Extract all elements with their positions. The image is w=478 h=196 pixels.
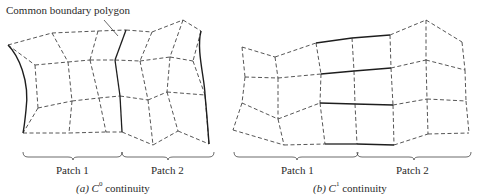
control-polygon-row-edge <box>178 131 209 144</box>
caption-b-symbol: C <box>329 182 336 194</box>
control-polygon-column-edge <box>148 100 153 145</box>
control-polygon-row-edge <box>316 38 352 43</box>
brace-b-patch-2 <box>357 152 471 160</box>
control-polygon-row-edge <box>321 71 354 74</box>
control-polygon-column-edge <box>393 105 394 145</box>
common-boundary-annotation: Common boundary polygon <box>6 4 130 16</box>
annotation-leader-line <box>104 20 118 36</box>
control-polygon-row-edge <box>122 132 153 145</box>
control-polygon-row-edge <box>275 43 316 57</box>
control-polygon-row-edge <box>278 103 320 119</box>
control-polygon-row-edge <box>68 60 90 62</box>
caption-b: (b) C1 continuity <box>313 180 387 194</box>
control-polygon-row-edge <box>352 35 390 38</box>
caption-b-superscript: 1 <box>336 180 340 188</box>
control-polygon-row-edge <box>354 68 391 71</box>
control-polygon-column-edge <box>35 65 38 108</box>
caption-a-symbol: C <box>92 182 99 194</box>
control-polygon-row-edge <box>391 60 426 68</box>
control-polygon-row-edge <box>38 101 72 108</box>
control-polygon-column-edge <box>8 45 35 65</box>
patch-label-a-2: Patch 2 <box>151 164 184 176</box>
control-polygon-row-edge <box>167 92 205 95</box>
control-polygon-column-edge <box>167 57 170 92</box>
control-polygon-row-edge <box>426 60 465 70</box>
control-polygon-row-edge <box>355 104 393 105</box>
left-edge-curve-a <box>8 45 27 133</box>
control-polygon-row-edge <box>152 20 183 32</box>
control-polygon-row-edge <box>126 30 152 32</box>
control-polygon-row-edge <box>69 132 106 133</box>
control-polygon-row-edge <box>98 30 126 31</box>
control-polygon-column-edge <box>426 60 427 99</box>
control-polygon-column-edge <box>462 42 465 70</box>
control-polygon-row-edge <box>233 130 284 145</box>
control-polygon-row-edge <box>99 96 120 98</box>
brace-a-patch-2 <box>122 152 214 160</box>
control-polygon-row-edge <box>394 134 428 145</box>
control-polygon-column-edge <box>278 119 284 145</box>
control-polygon-column-edge <box>275 57 278 78</box>
control-polygon-column-edge <box>391 68 393 105</box>
control-polygon-column-edge <box>99 98 106 132</box>
control-polygon-row-edge <box>148 92 167 100</box>
control-polygon-column-edge <box>242 47 245 77</box>
control-polygon-row-edge <box>393 99 427 105</box>
control-polygon-row-edge <box>72 98 99 101</box>
control-polygon-row-edge <box>170 57 193 61</box>
control-polygon-column-edge <box>90 31 98 60</box>
caption-b-prefix: (b) <box>313 182 326 194</box>
control-polygon-column-edge <box>52 33 68 62</box>
patch-label-b-1: Patch 1 <box>281 164 314 176</box>
patch-label-a-1: Patch 1 <box>56 164 89 176</box>
control-polygon-column-edge <box>320 103 325 144</box>
caption-a-superscript: 0 <box>99 180 103 188</box>
brace-a-patch-1 <box>23 152 122 160</box>
control-polygon-column-edge <box>69 101 72 133</box>
control-polygon-column-edge <box>352 38 354 71</box>
control-polygon-row-edge <box>242 103 278 119</box>
control-polygon-column-edge <box>354 71 355 104</box>
control-polygon-row-edge <box>427 99 466 101</box>
control-polygon-row-edge <box>52 31 98 33</box>
control-polygon-row-edge <box>357 144 394 145</box>
control-polygon-column-edge <box>466 101 469 133</box>
control-polygon-row-edge <box>153 131 178 145</box>
patch-label-b-2: Patch 2 <box>396 164 429 176</box>
control-polygon-column-edge <box>90 60 99 98</box>
control-polygon-row-edge <box>245 77 278 78</box>
control-polygon-row-edge <box>35 62 68 65</box>
control-polygon-column-edge <box>233 103 242 130</box>
control-polygon-row-edge <box>284 144 325 145</box>
control-polygon-row-edge <box>140 57 170 61</box>
control-polygon-column-edge <box>167 92 178 131</box>
caption-a-prefix: (a) <box>76 182 89 194</box>
control-polygon-column-edge <box>140 61 148 100</box>
control-polygon-row-edge <box>320 103 355 104</box>
control-polygon-row-edge <box>183 20 201 31</box>
control-polygon-row-edge <box>428 133 469 134</box>
control-polygon-column-edge <box>465 70 466 101</box>
control-polygon-column-edge <box>68 62 72 101</box>
control-polygon-row-edge <box>278 74 321 78</box>
control-polygon-column-edge <box>170 20 183 57</box>
control-polygon-column-edge <box>316 43 321 74</box>
control-polygon-column-edge <box>320 74 321 103</box>
common-boundary-edge <box>115 60 120 96</box>
control-polygon-row-edge <box>115 60 140 61</box>
control-polygon-column-edge <box>355 104 357 144</box>
caption-a-suffix: continuity <box>105 182 150 194</box>
control-polygon-column-edge <box>140 32 152 61</box>
right-edge-curve-a <box>199 31 209 144</box>
caption-b-suffix: continuity <box>342 182 387 194</box>
panel-c0-continuity <box>8 20 209 145</box>
control-polygon-row-edge <box>426 20 462 42</box>
control-polygon-row-edge <box>390 20 426 35</box>
panel-c1-continuity <box>233 20 469 145</box>
control-polygon-row-edge <box>242 47 275 57</box>
control-polygon-column-edge <box>427 99 428 134</box>
control-polygon-column-edge <box>390 35 391 68</box>
control-polygon-column-edge <box>242 77 245 103</box>
common-boundary-edge <box>120 96 122 132</box>
control-polygon-row-edge <box>120 96 148 100</box>
